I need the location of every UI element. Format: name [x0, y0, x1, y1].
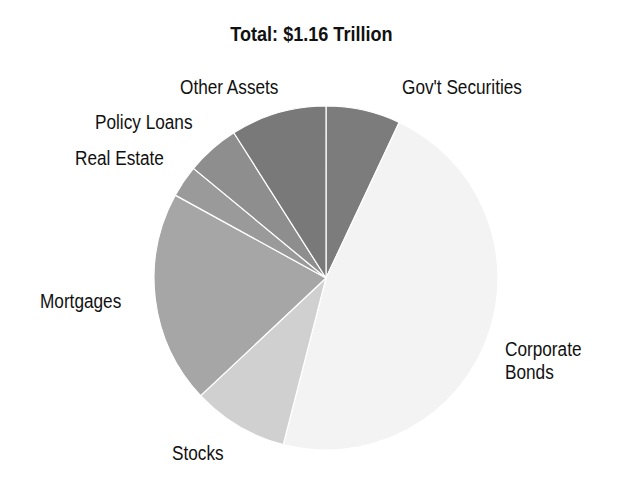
slice-label: Stocks	[172, 442, 224, 465]
slice-label: Policy Loans	[95, 111, 193, 134]
slice-label: Other Assets	[180, 76, 278, 99]
slice-label: Gov't Securities	[402, 76, 522, 99]
slice-label: CorporateBonds	[505, 338, 581, 384]
slice-label: Mortgages	[40, 290, 121, 313]
slice-label: Real Estate	[75, 147, 164, 170]
pie-chart	[0, 0, 623, 486]
